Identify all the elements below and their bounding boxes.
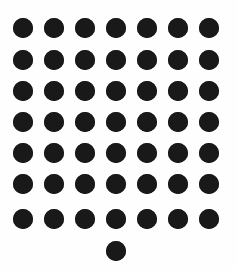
dot-grid-figure xyxy=(0,0,237,270)
grid-dot xyxy=(199,174,219,194)
grid-dot xyxy=(199,143,219,163)
grid-dot xyxy=(137,81,157,101)
grid-dot xyxy=(44,209,64,229)
grid-dot xyxy=(137,209,157,229)
grid-dot xyxy=(75,18,95,38)
grid-dot xyxy=(75,50,95,70)
grid-dot xyxy=(168,50,188,70)
grid-dot xyxy=(106,18,126,38)
grid-dot xyxy=(106,174,126,194)
grid-dot xyxy=(75,112,95,132)
grid-dot xyxy=(168,112,188,132)
grid-dot xyxy=(44,81,64,101)
grid-dot xyxy=(106,143,126,163)
grid-dot xyxy=(137,18,157,38)
grid-dot xyxy=(106,50,126,70)
grid-dot xyxy=(199,209,219,229)
grid-dot xyxy=(199,50,219,70)
grid-dot xyxy=(75,143,95,163)
grid-dot xyxy=(106,81,126,101)
grid-dot xyxy=(199,18,219,38)
grid-dot xyxy=(13,81,33,101)
grid-dot xyxy=(13,50,33,70)
grid-dot xyxy=(13,112,33,132)
isolated-bottom-dot xyxy=(106,241,126,261)
grid-dot xyxy=(137,112,157,132)
grid-dot xyxy=(13,174,33,194)
grid-dot xyxy=(44,112,64,132)
grid-dot xyxy=(137,143,157,163)
grid-dot xyxy=(106,112,126,132)
grid-dot xyxy=(44,174,64,194)
grid-dot xyxy=(106,209,126,229)
grid-dot xyxy=(13,18,33,38)
grid-dot xyxy=(44,50,64,70)
grid-dot xyxy=(44,143,64,163)
grid-dot xyxy=(168,143,188,163)
grid-dot xyxy=(75,81,95,101)
grid-dot xyxy=(75,174,95,194)
grid-dot xyxy=(168,81,188,101)
grid-dot xyxy=(75,209,95,229)
grid-dot xyxy=(199,112,219,132)
grid-dot xyxy=(44,18,64,38)
grid-dot xyxy=(13,143,33,163)
grid-dot xyxy=(168,18,188,38)
grid-dot xyxy=(168,174,188,194)
grid-dot xyxy=(13,209,33,229)
grid-dot xyxy=(168,209,188,229)
grid-dot xyxy=(137,50,157,70)
grid-dot xyxy=(199,81,219,101)
grid-dot xyxy=(137,174,157,194)
